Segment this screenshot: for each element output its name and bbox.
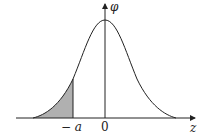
tick-zero: 0 <box>101 120 109 134</box>
shaded-tail-region <box>33 79 73 118</box>
normal-curve-diagram: φ z − a 0 <box>0 0 205 139</box>
tick-neg-a: − a <box>61 120 82 134</box>
x-axis-label: z <box>189 121 197 135</box>
y-axis-label: φ <box>110 0 119 14</box>
